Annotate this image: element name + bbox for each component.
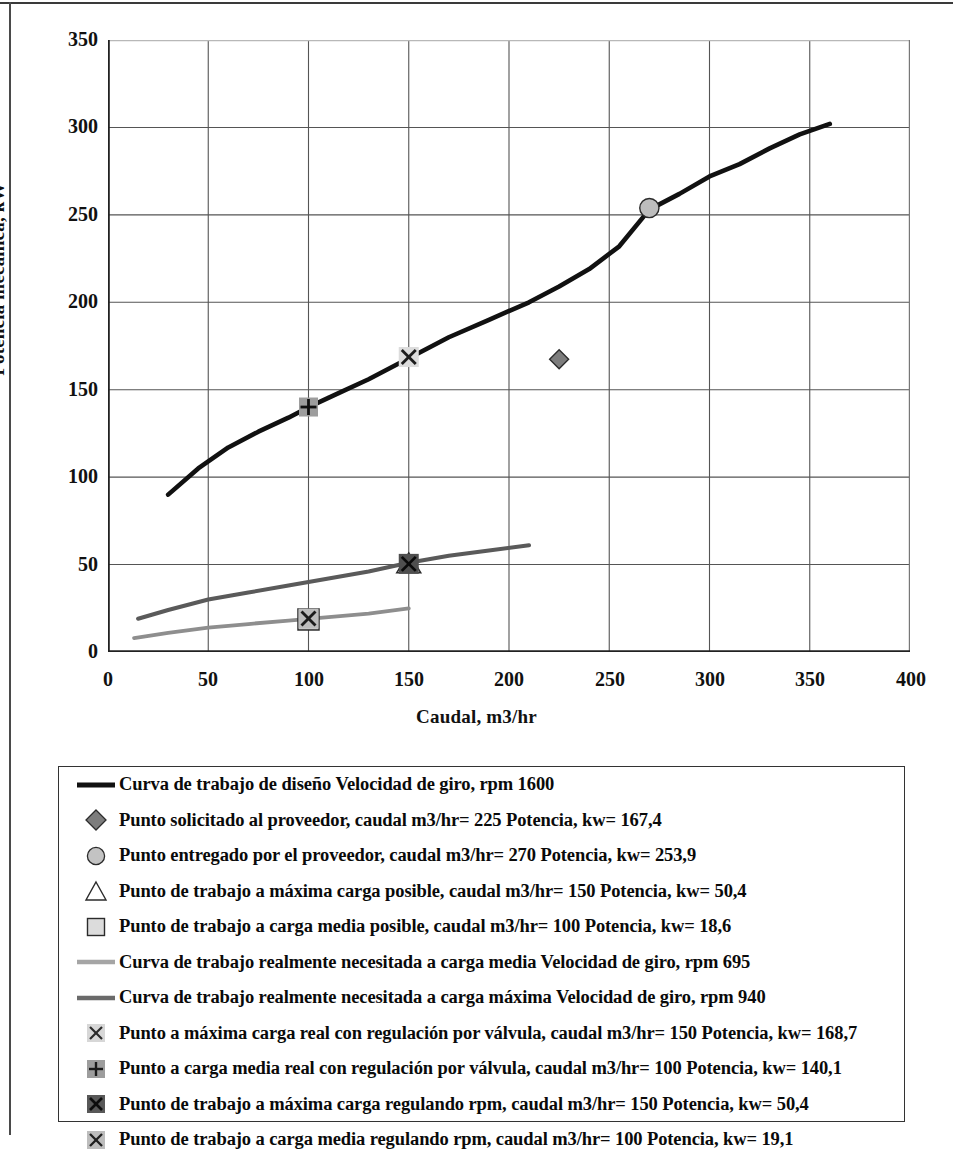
series-line bbox=[168, 124, 830, 495]
y-tick-0: 0 bbox=[38, 640, 98, 663]
y-tick-100: 100 bbox=[38, 465, 98, 488]
plus-marker-icon bbox=[73, 1056, 119, 1082]
y-axis-title: Potencia mecánica, kW bbox=[0, 99, 9, 459]
thick-black-line-icon bbox=[73, 772, 119, 798]
data-point-marker bbox=[399, 554, 419, 574]
series-line bbox=[134, 608, 409, 638]
legend-label: Punto a máxima carga real con regulación… bbox=[119, 1023, 857, 1044]
y-tick-300: 300 bbox=[38, 115, 98, 138]
legend-item-max-load-curve: Curva de trabajo realmente necesitada a … bbox=[59, 980, 904, 1016]
plot-svg bbox=[108, 40, 910, 652]
legend-item-valve-max-load: Punto a máxima carga real con regulación… bbox=[59, 1016, 904, 1052]
legend-item-valve-medium-load: Punto a carga media real con regulación … bbox=[59, 1051, 904, 1087]
x-tick-400: 400 bbox=[871, 668, 951, 691]
legend-item-delivered-point: Punto entregado por el proveedor, caudal… bbox=[59, 838, 904, 874]
legend-label: Punto de trabajo a carga media posible, … bbox=[119, 916, 731, 937]
data-point-marker bbox=[399, 347, 419, 367]
plot-area bbox=[108, 40, 910, 652]
x-tick-350: 350 bbox=[770, 668, 850, 691]
x-tick-100: 100 bbox=[269, 668, 349, 691]
open-triangle-marker-icon bbox=[73, 878, 119, 904]
light-square-marker-icon bbox=[73, 914, 119, 940]
gridlines-vertical bbox=[208, 40, 810, 652]
y-tick-250: 250 bbox=[38, 203, 98, 226]
data-points-layer bbox=[298, 198, 659, 630]
legend-label: Punto entregado por el proveedor, caudal… bbox=[119, 845, 696, 866]
legend-label: Punto de trabajo a máxima carga posible,… bbox=[119, 881, 746, 902]
legend-label: Punto solicitado al proveedor, caudal m3… bbox=[119, 810, 662, 831]
legend-label: Curva de trabajo realmente necesitada a … bbox=[119, 987, 766, 1008]
y-tick-50: 50 bbox=[38, 553, 98, 576]
y-tick-150: 150 bbox=[38, 378, 98, 401]
x-tick-0: 0 bbox=[68, 668, 148, 691]
gray-diamond-marker-icon bbox=[73, 807, 119, 833]
light-x-marker-icon bbox=[73, 1020, 119, 1046]
legend-label: Punto a carga media real con regulación … bbox=[119, 1058, 842, 1079]
x-tick-150: 150 bbox=[369, 668, 449, 691]
dark-gray-line-icon bbox=[73, 985, 119, 1011]
y-tick-350: 350 bbox=[38, 28, 98, 51]
x-tick-250: 250 bbox=[570, 668, 650, 691]
x-tick-200: 200 bbox=[469, 668, 549, 691]
gray-circle-marker-icon bbox=[73, 843, 119, 869]
y-tick-200: 200 bbox=[38, 290, 98, 313]
data-point-marker bbox=[550, 350, 569, 369]
legend-label: Punto de trabajo a máxima carga reguland… bbox=[119, 1094, 809, 1115]
legend-item-design-curve: Curva de trabajo de diseño Velocidad de … bbox=[59, 767, 904, 803]
x-axis-title: Caudal, m3/hr bbox=[0, 706, 953, 728]
legend-item-requested-point: Punto solicitado al proveedor, caudal m3… bbox=[59, 803, 904, 839]
data-point-marker bbox=[299, 398, 318, 417]
legend-item-rpm-medium-load: Punto de trabajo a carga media regulando… bbox=[59, 1122, 904, 1153]
legend-item-medium-load-curve: Curva de trabajo realmente necesitada a … bbox=[59, 945, 904, 981]
legend-label: Curva de trabajo realmente necesitada a … bbox=[119, 952, 750, 973]
data-point-marker bbox=[299, 609, 319, 629]
legend-label: Punto de trabajo a carga media regulando… bbox=[119, 1129, 793, 1150]
dark-x-marker-icon bbox=[73, 1091, 119, 1117]
series-line bbox=[138, 545, 529, 618]
legend-item-medium-load-possible: Punto de trabajo a carga media posible, … bbox=[59, 909, 904, 945]
light-gray-line-icon bbox=[73, 949, 119, 975]
mid-x-marker-icon bbox=[73, 1127, 119, 1153]
chart-legend: Curva de trabajo de diseño Velocidad de … bbox=[58, 766, 905, 1122]
x-tick-300: 300 bbox=[670, 668, 750, 691]
legend-item-max-load-possible: Punto de trabajo a máxima carga posible,… bbox=[59, 874, 904, 910]
data-series-layer bbox=[134, 124, 830, 638]
x-tick-50: 50 bbox=[168, 668, 248, 691]
legend-item-rpm-max-load: Punto de trabajo a máxima carga reguland… bbox=[59, 1087, 904, 1123]
data-point-marker bbox=[640, 198, 659, 217]
legend-label: Curva de trabajo de diseño Velocidad de … bbox=[119, 774, 554, 795]
